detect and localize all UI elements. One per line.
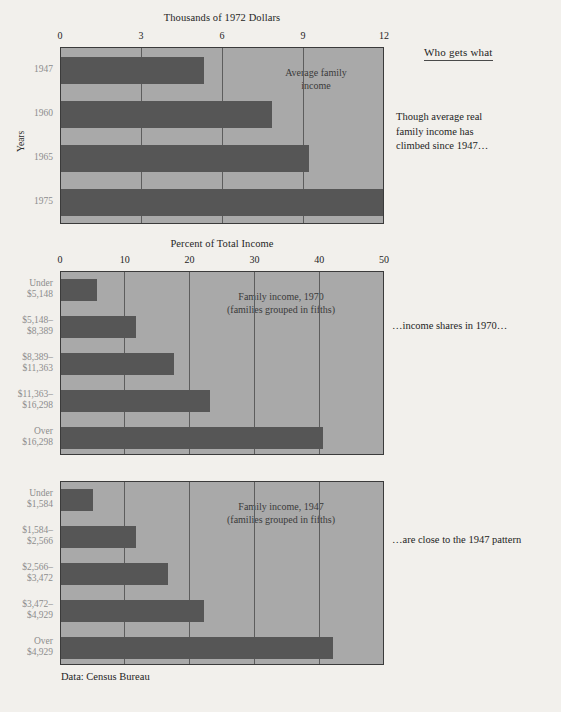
chart-title-middle: Percent of Total Income xyxy=(60,238,384,249)
x-tick-label: 50 xyxy=(379,254,389,265)
plot-area-bottom: Family income, 1947 (families grouped in… xyxy=(60,481,384,665)
y-tick-label: 1947 xyxy=(0,64,53,75)
bar xyxy=(61,427,323,449)
y-tick-label: Under $5,148 xyxy=(0,278,53,300)
x-tick-label: 12 xyxy=(379,30,389,41)
plot-area-top: Average family income xyxy=(60,47,384,224)
bar xyxy=(61,526,136,548)
y-tick-label: $8,389– $11,363 xyxy=(0,352,53,374)
bar xyxy=(61,600,204,622)
y-tick-label: Under $1,584 xyxy=(0,488,53,510)
y-tick-label: 1975 xyxy=(0,196,53,207)
bar xyxy=(61,189,384,216)
x-axis-middle: 01020304050 xyxy=(60,254,384,267)
rail-note-bottom: …are close to the 1947 pattern xyxy=(392,533,557,548)
y-axis-labels-bottom: Under $1,584$1,584– $2,566$2,566– $3,472… xyxy=(0,481,56,665)
bar xyxy=(61,145,309,172)
y-tick-label: $5,148– $8,389 xyxy=(0,315,53,337)
y-axis-labels-top: 1947196019651975 xyxy=(0,47,56,224)
bar xyxy=(61,563,168,585)
y-tick-label: 1965 xyxy=(0,152,53,163)
y-tick-label: 1960 xyxy=(0,108,53,119)
x-tick-label: 20 xyxy=(185,254,195,265)
y-tick-label: $1,584– $2,566 xyxy=(0,525,53,547)
x-tick-label: 0 xyxy=(58,30,63,41)
y-axis-labels-middle: Under $5,148$5,148– $8,389$8,389– $11,36… xyxy=(0,271,56,455)
annotation-family-income-1970: Family income, 1970 (families grouped in… xyxy=(181,290,381,316)
y-tick-label: Over $4,929 xyxy=(0,636,53,658)
bar xyxy=(61,57,204,84)
annotation-average-family-income: Average family income xyxy=(251,66,381,92)
x-tick-label: 9 xyxy=(301,30,306,41)
y-tick-label: $2,566– $3,472 xyxy=(0,562,53,584)
x-tick-label: 3 xyxy=(139,30,144,41)
source-note: Data: Census Bureau xyxy=(61,671,150,682)
rail-note-top: Though average real family income has cl… xyxy=(396,110,546,154)
x-tick-label: 40 xyxy=(314,254,324,265)
annotation-family-income-1947: Family income, 1947 (families grouped in… xyxy=(181,500,381,526)
x-tick-label: 10 xyxy=(120,254,130,265)
bar xyxy=(61,637,333,659)
figure-canvas: Thousands of 1972 Dollars 036912 Years 1… xyxy=(0,0,561,712)
bar xyxy=(61,101,272,128)
x-tick-label: 6 xyxy=(220,30,225,41)
chart-title-top: Thousands of 1972 Dollars xyxy=(60,12,384,23)
rail-note-middle: …income shares in 1970… xyxy=(392,319,552,334)
y-tick-label: $3,472– $4,929 xyxy=(0,599,53,621)
rail-heading: Who gets what xyxy=(424,46,493,61)
chart-panel-income-shares-1947: Under $1,584$1,584– $2,566$2,566– $3,472… xyxy=(0,464,561,712)
y-tick-label: $11,363– $16,298 xyxy=(0,389,53,411)
bar xyxy=(61,353,174,375)
plot-area-middle: Family income, 1970 (families grouped in… xyxy=(60,271,384,455)
y-tick-label: Over $16,298 xyxy=(0,426,53,448)
bar xyxy=(61,279,97,301)
x-tick-label: 0 xyxy=(58,254,63,265)
chart-panel-income-shares-1970: Percent of Total Income 01020304050 Unde… xyxy=(0,232,561,464)
x-tick-label: 30 xyxy=(249,254,259,265)
x-axis-top: 036912 xyxy=(60,30,384,43)
bar xyxy=(61,489,93,511)
bar xyxy=(61,316,136,338)
bar xyxy=(61,390,210,412)
